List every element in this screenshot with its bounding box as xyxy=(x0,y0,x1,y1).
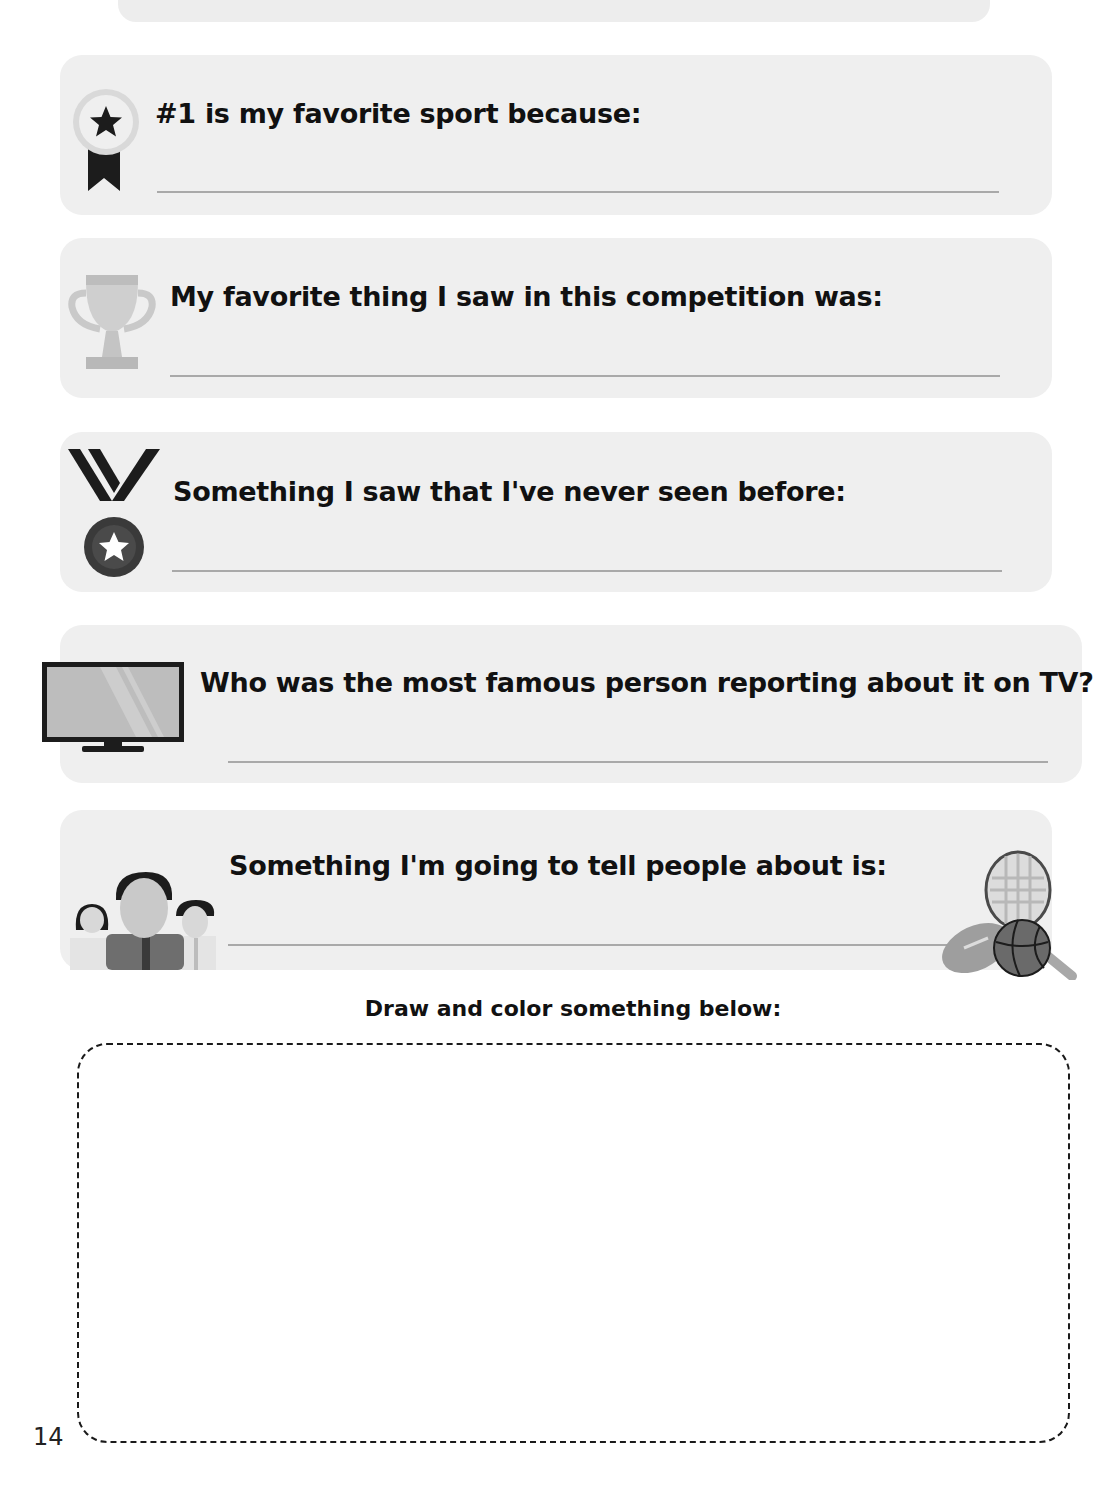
previous-section-panel xyxy=(118,0,990,22)
question-prompt: #1 is my favorite sport because: xyxy=(155,98,641,129)
answer-line[interactable] xyxy=(228,761,1048,763)
answer-line[interactable] xyxy=(170,375,1000,377)
medal-icon xyxy=(68,447,164,579)
question-prompt: Who was the most famous person reporting… xyxy=(200,667,1094,698)
people-icon xyxy=(70,868,216,970)
question-panel-famous-reporter xyxy=(60,625,1082,783)
page-number: 14 xyxy=(33,1423,64,1451)
question-panel-favorite-thing xyxy=(60,238,1052,398)
award-ribbon-icon xyxy=(70,86,142,196)
tv-icon xyxy=(40,660,186,754)
drawing-area[interactable] xyxy=(77,1043,1070,1443)
question-prompt: My favorite thing I saw in this competit… xyxy=(170,281,883,312)
trophy-icon xyxy=(68,273,156,373)
question-prompt: Something I saw that I've never seen bef… xyxy=(173,476,846,507)
drawing-label: Draw and color something below: xyxy=(0,996,1094,1021)
answer-line[interactable] xyxy=(172,570,1002,572)
answer-line[interactable] xyxy=(157,191,999,193)
answer-line[interactable] xyxy=(228,944,968,946)
sports-equipment-icon xyxy=(940,850,1080,980)
question-panel-never-seen xyxy=(60,432,1052,592)
question-prompt: Something I'm going to tell people about… xyxy=(229,850,887,881)
